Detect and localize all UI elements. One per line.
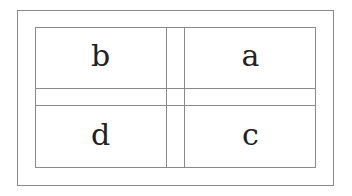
cell-label-bottom-right: c — [185, 120, 316, 150]
cell-label-bottom-left: d — [35, 120, 166, 150]
vertical-divider-left — [166, 27, 167, 168]
horizontal-divider-top — [35, 88, 316, 89]
horizontal-divider-bottom — [35, 105, 316, 106]
cell-label-top-right: a — [185, 41, 316, 71]
cell-label-top-left: b — [35, 41, 166, 71]
